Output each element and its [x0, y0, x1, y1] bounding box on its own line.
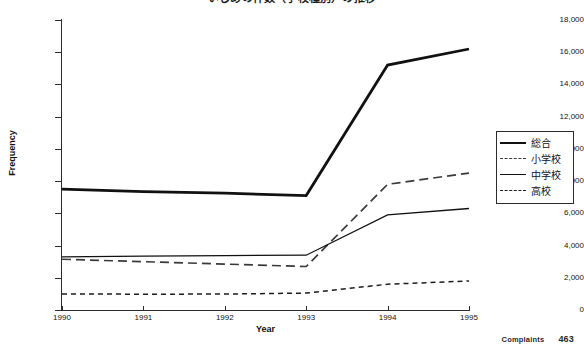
y-tick-14000: [55, 84, 62, 85]
footer-caption: Complaints: [502, 335, 545, 344]
legend-swatch-icon: [500, 186, 526, 196]
y-tick-0: [55, 310, 62, 311]
y-tick-4000: [55, 246, 62, 247]
y-tick-label-18000: 18,000: [532, 16, 584, 24]
legend-label: 高校: [526, 186, 551, 197]
legend-label: 中学校: [526, 170, 561, 181]
legend-swatch-icon: [500, 138, 526, 148]
x-tick-label-1990: 1990: [42, 313, 82, 322]
x-axis-line: [61, 310, 470, 311]
y-tick-label-14000: 14,000: [532, 80, 584, 88]
legend-swatch-icon: [500, 154, 526, 164]
footer-page-number: 463: [558, 334, 574, 344]
plot-area: [62, 20, 469, 310]
x-tick-label-1992: 1992: [205, 313, 245, 322]
y-tick-2000: [55, 278, 62, 279]
y-tick-label-6000: 6,000: [532, 209, 584, 217]
y-axis-title: Frequency: [7, 108, 17, 198]
x-axis-title: Year: [62, 324, 469, 334]
y-tick-10000: [55, 149, 62, 150]
series-canvas: [62, 20, 469, 310]
series-line-高校: [62, 281, 469, 294]
y-tick-label-12000: 12,000: [532, 113, 584, 121]
x-tick-label-1995: 1995: [449, 313, 489, 322]
legend-item-中学校[interactable]: 中学校: [497, 167, 573, 183]
chart-title: いじめの件数（学校種別）の推移: [0, 0, 584, 5]
y-tick-label-4000: 4,000: [532, 242, 584, 250]
legend-swatch-icon: [500, 170, 526, 180]
legend: 総合小学校中学校高校: [496, 131, 574, 204]
y-tick-18000: [55, 20, 62, 21]
series-line-総合: [62, 49, 469, 196]
series-line-中学校: [62, 209, 469, 257]
y-tick-label-2000: 2,000: [532, 274, 584, 282]
y-tick-label-16000: 16,000: [532, 48, 584, 56]
y-tick-16000: [55, 52, 62, 53]
y-tick-8000: [55, 181, 62, 182]
legend-label: 小学校: [526, 154, 561, 165]
x-tick-label-1994: 1994: [368, 313, 408, 322]
legend-item-高校[interactable]: 高校: [497, 183, 573, 199]
series-line-小学校: [62, 173, 469, 266]
y-tick-6000: [55, 213, 62, 214]
legend-item-総合[interactable]: 総合: [497, 135, 573, 151]
x-tick-label-1993: 1993: [286, 313, 326, 322]
y-tick-12000: [55, 117, 62, 118]
footer: Complaints 463: [502, 334, 574, 344]
y-tick-label-0: 0: [532, 306, 584, 314]
x-tick-label-1991: 1991: [123, 313, 163, 322]
x-tick-1995: [469, 306, 470, 311]
legend-label: 総合: [526, 138, 551, 149]
legend-item-小学校[interactable]: 小学校: [497, 151, 573, 167]
